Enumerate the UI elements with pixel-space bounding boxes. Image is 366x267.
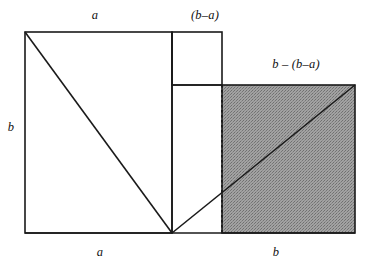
label-b-minus-quantity: b – (b–a) — [272, 58, 320, 71]
small-square-b-minus-a — [172, 32, 222, 85]
label-a-bottom: a — [97, 246, 103, 259]
label-b-bottom: b — [273, 246, 279, 259]
shaded-square — [222, 85, 355, 233]
diagonal-descending — [25, 32, 172, 233]
label-b-minus-a-top: (b–a) — [191, 9, 219, 22]
label-a-top: a — [92, 9, 98, 22]
geometry-figure: a (b–a) b – (b–a) b a b — [0, 0, 366, 267]
figure-canvas — [0, 0, 366, 267]
label-b-left: b — [8, 121, 14, 134]
